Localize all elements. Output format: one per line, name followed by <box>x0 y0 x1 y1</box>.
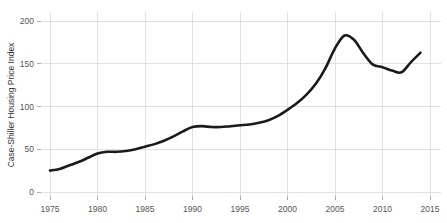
y-tick-label: 200 <box>20 16 34 26</box>
y-axis-title: Case-Shiller Housing Price Index <box>6 42 16 167</box>
x-tick-label: 1990 <box>183 204 202 214</box>
y-tick-label: 100 <box>20 102 34 112</box>
chart-container: 050100150200 197519801985199019952000200… <box>0 0 447 223</box>
y-tick-label: 0 <box>29 187 34 197</box>
x-tick-label: 2010 <box>373 204 392 214</box>
x-tick-label: 2015 <box>421 204 440 214</box>
x-tick-label: 2005 <box>326 204 345 214</box>
x-axis-tick-labels: 197519801985199019952000200520102015 <box>41 204 440 214</box>
chart-background <box>0 0 447 223</box>
y-tick-label: 150 <box>20 59 34 69</box>
x-tick-label: 1985 <box>136 204 155 214</box>
line-chart: 050100150200 197519801985199019952000200… <box>0 0 447 223</box>
x-tick-label: 1995 <box>231 204 250 214</box>
x-tick-label: 1975 <box>41 204 60 214</box>
y-tick-label: 50 <box>25 144 35 154</box>
x-tick-label: 2000 <box>278 204 297 214</box>
x-tick-label: 1980 <box>88 204 107 214</box>
